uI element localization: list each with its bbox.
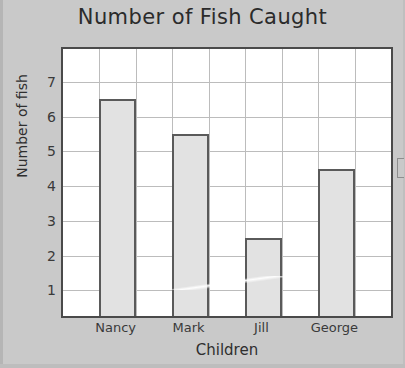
y-tick-label: 3 [4, 213, 56, 229]
y-tick-label: 5 [4, 143, 56, 159]
plot-area [61, 47, 393, 318]
bar-nancy [99, 99, 135, 316]
gridline-x-2 [136, 49, 137, 316]
x-tick-label-nancy: Nancy [95, 320, 136, 335]
gridline-x-8 [355, 49, 356, 316]
page-margin-mark [397, 158, 404, 178]
x-axis-tick-labels: NancyMarkJillGeorge [61, 320, 393, 340]
y-tick-label: 4 [4, 178, 56, 194]
chart-title: Number of Fish Caught [0, 5, 405, 29]
chart-page: Number of Fish Caught Number of fish 123… [0, 0, 405, 368]
x-tick-label-mark: Mark [173, 320, 205, 335]
gridline-x-6 [282, 49, 283, 316]
bar-george [318, 169, 354, 316]
bar-jill [245, 238, 281, 316]
y-tick-label: 2 [4, 248, 56, 264]
bar-mark [172, 134, 208, 316]
x-axis-title: Children [61, 341, 393, 359]
y-tick-label: 1 [4, 282, 56, 298]
y-tick-label: 7 [4, 74, 56, 90]
y-tick-label: 6 [4, 109, 56, 125]
x-tick-label-george: George [311, 320, 358, 335]
y-axis-tick-labels: 1234567 [0, 47, 56, 318]
x-tick-label-jill: Jill [254, 320, 269, 335]
page-edge-bottom [0, 364, 405, 368]
gridline-y-7 [63, 82, 391, 83]
gridline-x-4 [209, 49, 210, 316]
